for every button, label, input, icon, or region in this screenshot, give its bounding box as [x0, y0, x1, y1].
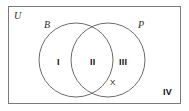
set-circle-p — [71, 23, 145, 97]
venn-diagram-figure: U B P I II III IV X — [0, 0, 189, 111]
universal-set-label: U — [14, 11, 21, 21]
point-label-x: X — [110, 79, 115, 87]
region-label-iv: IV — [163, 88, 172, 97]
set-label-p: P — [138, 20, 144, 30]
region-label-ii: II — [90, 58, 96, 67]
venn-diagram-graphics — [0, 0, 189, 111]
set-circle-b — [39, 23, 113, 97]
region-label-i: I — [57, 58, 60, 67]
set-label-b: B — [44, 20, 50, 30]
region-label-iii: III — [119, 58, 127, 67]
universal-set-rectangle — [9, 7, 181, 104]
